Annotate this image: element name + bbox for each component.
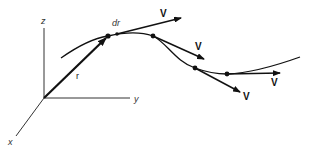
velocity-label: V bbox=[271, 77, 278, 88]
displacement-label: dr bbox=[112, 18, 121, 28]
velocity-label: V bbox=[160, 8, 167, 19]
x-axis bbox=[16, 98, 44, 136]
x-axis-label: x bbox=[7, 137, 13, 147]
velocity-arrow bbox=[117, 18, 181, 34]
position-vector: r bbox=[44, 38, 106, 98]
curve-points bbox=[105, 32, 229, 76]
curve-point bbox=[225, 72, 230, 77]
velocity-along-path-diagram: z y x r dr V V V V bbox=[0, 0, 313, 150]
velocity-label: V bbox=[243, 91, 250, 102]
coordinate-axes: z y x bbox=[7, 16, 139, 147]
y-axis-label: y bbox=[133, 94, 139, 104]
velocity-vector-2: V bbox=[153, 36, 204, 59]
velocity-arrow bbox=[227, 73, 280, 74]
curve-point bbox=[105, 33, 110, 38]
velocity-vector-1: V bbox=[117, 8, 181, 34]
curve-point bbox=[115, 32, 119, 36]
velocity-arrow bbox=[195, 68, 240, 92]
position-vector-label: r bbox=[76, 71, 79, 81]
curve-point bbox=[193, 66, 198, 71]
velocity-label: V bbox=[195, 41, 202, 52]
trajectory-curve bbox=[61, 33, 300, 74]
curve-point bbox=[151, 34, 156, 39]
position-vector-arrow bbox=[44, 38, 106, 98]
z-axis-label: z bbox=[40, 16, 46, 26]
velocity-vector-4: V bbox=[227, 73, 280, 88]
